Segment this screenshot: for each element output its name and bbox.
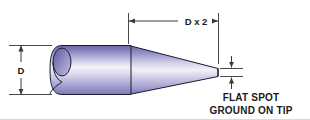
flat-spot-note-group: FLAT SPOT GROUND ON TIP [209, 92, 292, 116]
flat-spot-dimension-group [220, 56, 243, 89]
note-line-2: GROUND ON TIP [209, 105, 292, 116]
end-face-ellipse [53, 48, 71, 76]
cone-taper [129, 46, 218, 95]
part-silhouette [50, 46, 218, 95]
note-line-1: FLAT SPOT [223, 92, 280, 103]
diagram-canvas: D D x 2 FLAT SPOT GROUND ON TIP [0, 0, 310, 120]
technical-diagram: D D x 2 FLAT SPOT GROUND ON TIP [0, 0, 310, 120]
taper-length-label: D x 2 [185, 16, 208, 27]
diameter-dimension-group: D [9, 46, 52, 95]
diameter-label: D [18, 65, 25, 76]
